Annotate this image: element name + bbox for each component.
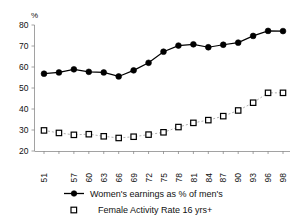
y-tick-label: 80 bbox=[19, 20, 29, 30]
data-point-marker bbox=[56, 70, 62, 76]
chart-legend: Women's earnings as % of men's Female Ac… bbox=[64, 189, 223, 215]
y-tick-label: 50 bbox=[19, 83, 29, 93]
data-point-marker bbox=[235, 40, 241, 46]
x-tick-label: 87 bbox=[218, 173, 228, 183]
data-point-marker bbox=[221, 113, 226, 118]
data-point-marker bbox=[86, 132, 91, 137]
y-axis-unit-label: % bbox=[31, 11, 38, 20]
data-point-marker bbox=[86, 69, 92, 75]
data-point-marker bbox=[250, 33, 256, 39]
y-tick-label: 70 bbox=[19, 41, 29, 51]
filled-circle-icon bbox=[71, 191, 77, 197]
data-point-marker bbox=[71, 132, 76, 137]
y-axis-ticks: 20304050607080 bbox=[19, 20, 34, 156]
data-point-marker bbox=[41, 71, 47, 77]
data-point-marker bbox=[146, 60, 152, 66]
data-point-marker bbox=[71, 66, 77, 72]
data-point-marker bbox=[235, 108, 240, 113]
data-point-marker bbox=[176, 43, 182, 49]
x-tick-label: 81 bbox=[189, 173, 199, 183]
y-tick-label: 30 bbox=[19, 125, 29, 135]
x-tick-label: 93 bbox=[248, 173, 258, 183]
chart-container: % 20304050607080 51576063666972757881848… bbox=[0, 0, 295, 224]
series-layer bbox=[41, 28, 286, 141]
data-point-marker bbox=[146, 132, 151, 137]
x-tick-label: 57 bbox=[69, 173, 79, 183]
legend-entry-female-activity: Female Activity Rate 16 yrs+ bbox=[71, 205, 212, 215]
data-point-marker bbox=[101, 70, 107, 76]
data-point-marker bbox=[161, 130, 166, 135]
data-point-marker bbox=[205, 44, 211, 50]
data-point-marker bbox=[265, 28, 271, 34]
data-point-marker bbox=[56, 130, 61, 135]
legend-label-women-earnings: Women's earnings as % of men's bbox=[90, 189, 223, 199]
open-square-icon bbox=[71, 207, 77, 213]
line-chart: % 20304050607080 51576063666972757881848… bbox=[0, 0, 295, 224]
x-tick-label: 63 bbox=[99, 173, 109, 183]
data-point-marker bbox=[176, 124, 181, 129]
data-point-marker bbox=[280, 90, 285, 95]
x-tick-label: 60 bbox=[84, 173, 94, 183]
x-tick-label: 78 bbox=[174, 173, 184, 183]
data-point-marker bbox=[101, 134, 106, 139]
data-point-marker bbox=[116, 74, 122, 80]
x-tick-label: 69 bbox=[129, 173, 139, 183]
x-tick-label: 84 bbox=[204, 173, 214, 183]
x-tick-label: 98 bbox=[278, 173, 288, 183]
x-tick-label: 72 bbox=[144, 173, 154, 183]
x-tick-label: 75 bbox=[159, 173, 169, 183]
data-point-marker bbox=[41, 128, 46, 133]
data-point-marker bbox=[161, 49, 167, 55]
data-point-marker bbox=[265, 90, 270, 95]
legend-entry-women-earnings: Women's earnings as % of men's bbox=[64, 189, 223, 199]
x-tick-label: 51 bbox=[39, 173, 49, 183]
data-point-marker bbox=[131, 134, 136, 139]
x-axis-ticks: 51576063666972757881848790939698 bbox=[39, 151, 288, 182]
y-tick-label: 40 bbox=[19, 104, 29, 114]
x-tick-label: 90 bbox=[233, 173, 243, 183]
data-point-marker bbox=[206, 117, 211, 122]
data-point-marker bbox=[116, 135, 121, 140]
x-tick-label: 66 bbox=[114, 173, 124, 183]
data-point-marker bbox=[190, 41, 196, 47]
data-point-marker bbox=[220, 42, 226, 48]
series-women-earnings bbox=[41, 28, 286, 79]
data-point-marker bbox=[131, 67, 137, 73]
y-tick-label: 60 bbox=[19, 62, 29, 72]
series-female-activity-rate bbox=[41, 90, 285, 141]
data-point-marker bbox=[280, 28, 286, 34]
legend-label-female-activity: Female Activity Rate 16 yrs+ bbox=[98, 205, 212, 215]
data-point-marker bbox=[191, 120, 196, 125]
y-tick-label: 20 bbox=[19, 146, 29, 156]
data-point-marker bbox=[250, 100, 255, 105]
x-tick-label: 96 bbox=[263, 173, 273, 183]
